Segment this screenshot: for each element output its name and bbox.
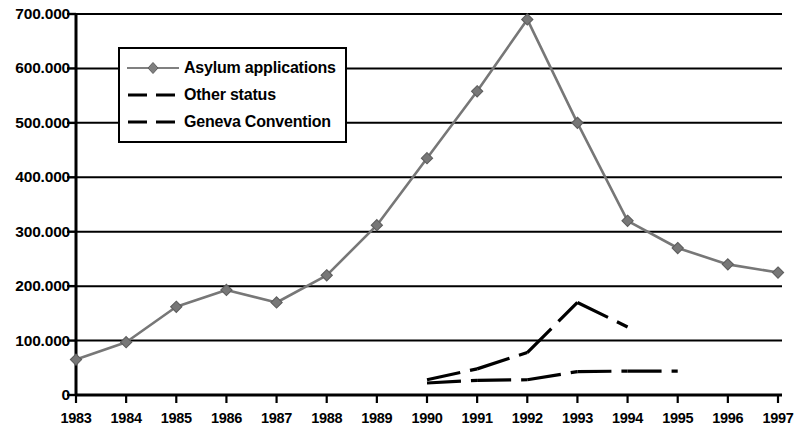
x-axis-tick-label: 1984 [111,410,142,426]
legend-key-asylum-applications-icon [127,61,179,75]
x-axis-tick-label: 1997 [762,410,793,426]
x-axis-tick-label: 1990 [411,410,442,426]
data-point-marker [622,215,633,226]
series-line-segment [427,369,477,380]
x-axis-tick-label: 1989 [361,410,392,426]
data-point-marker [572,117,583,128]
series-line-segment [477,380,527,381]
series-line-segment [527,302,577,352]
legend-item: Geneva Convention [127,108,336,135]
x-axis-tick-label: 1988 [311,410,342,426]
x-axis-tick-label: 1995 [662,410,693,426]
x-axis-tick-label: 1991 [462,410,493,426]
x-axis-tick-label: 1985 [161,410,192,426]
x-axis-tick-label: 1986 [211,410,242,426]
x-axis-tick-label: 1983 [60,410,91,426]
series-line-segment [527,372,577,380]
series-line-segment [577,302,627,326]
data-point-marker [70,354,81,365]
legend-label-geneva-convention: Geneva Convention [184,113,331,131]
x-axis-tick-label: 1992 [512,410,543,426]
data-point-marker [722,259,733,270]
legend-key-geneva-convention-icon [127,115,179,129]
x-axis-tick-label: 1996 [712,410,743,426]
legend-key-other-status-icon [127,88,179,102]
x-axis-tick-label: 1993 [562,410,593,426]
series-line-segment [577,371,627,372]
legend-item: Asylum applications [127,54,336,81]
data-point-marker [772,267,783,278]
chart-legend: Asylum applications Other status Geneva … [118,47,347,143]
data-point-marker [672,242,683,253]
data-point-marker [271,297,282,308]
x-axis-tick-label: 1987 [261,410,292,426]
x-axis-tick-label: 1994 [612,410,643,426]
legend-label-other-status: Other status [184,86,276,104]
series-line-segment [427,380,477,383]
legend-item: Other status [127,81,336,108]
legend-label-asylum-applications: Asylum applications [184,59,336,77]
series-line-segment [477,353,527,369]
x-axis-labels: 1983198419851986198719881989199019911992… [0,404,792,432]
